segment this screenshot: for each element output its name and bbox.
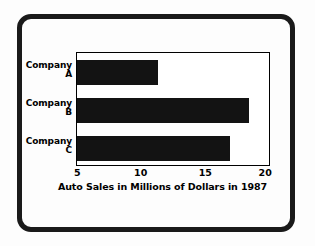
- x-tick-label-15: 15: [199, 167, 212, 178]
- x-tick-label-10: 10: [134, 167, 147, 178]
- category-label-company-c: Company C: [20, 137, 72, 156]
- category-label-line1: Company: [20, 137, 72, 147]
- x-tick-label-5: 5: [74, 167, 81, 178]
- x-tick-label-20: 20: [259, 167, 272, 178]
- chart-screenshot: Company A Company B Company C 5 10 15: [0, 0, 315, 246]
- category-label-line2: B: [20, 108, 72, 118]
- x-axis-tick-labels: 5 10 15 20: [76, 167, 270, 181]
- plot-area: [76, 52, 270, 166]
- category-label-line2: C: [20, 146, 72, 156]
- bar-company-c: [77, 136, 230, 161]
- category-axis-labels: Company A Company B Company C: [20, 52, 72, 166]
- category-label-line2: A: [20, 70, 72, 80]
- bar-company-b: [77, 98, 249, 123]
- bars-layer: [77, 53, 269, 165]
- category-label-company-a: Company A: [20, 61, 72, 80]
- bar-company-a: [77, 60, 158, 85]
- category-label-line1: Company: [20, 99, 72, 109]
- x-axis-title: Auto Sales in Millions of Dollars in 198…: [40, 181, 285, 192]
- category-label-company-b: Company B: [20, 99, 72, 118]
- bar-chart-figure: Company A Company B Company C 5 10 15: [0, 0, 315, 246]
